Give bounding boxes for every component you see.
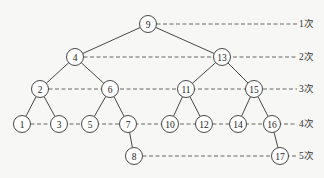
- edge-6-7: [114, 97, 124, 117]
- tree-node-12: 12: [196, 116, 213, 133]
- tree-node-1: 1: [14, 116, 31, 133]
- node-label: 13: [217, 53, 227, 63]
- edge-11-12: [190, 97, 200, 117]
- node-label: 15: [249, 85, 259, 95]
- binary-tree-diagram: 9413261115135710121416817 1次2次3次4次5次: [0, 0, 324, 178]
- level-3-label: 3次: [299, 83, 314, 94]
- level-1-label: 1次: [299, 18, 314, 29]
- node-label: 16: [267, 120, 277, 130]
- edge-13-15: [228, 63, 248, 83]
- tree-node-2: 2: [32, 81, 49, 98]
- node-label: 2: [38, 85, 43, 95]
- tree-node-13: 13: [214, 49, 231, 66]
- tree-node-8: 8: [126, 148, 143, 165]
- node-label: 4: [73, 53, 78, 63]
- tree-node-16: 16: [264, 116, 281, 133]
- tree-node-9: 9: [140, 16, 157, 33]
- tree-node-17: 17: [272, 148, 289, 165]
- edge-7-8: [130, 132, 133, 147]
- edge-9-13: [156, 27, 214, 53]
- edge-16-17: [274, 132, 278, 148]
- edge-6-5: [94, 96, 106, 116]
- edge-2-1: [26, 97, 36, 117]
- node-label: 5: [88, 120, 93, 130]
- node-label: 14: [233, 120, 243, 130]
- node-label: 6: [108, 85, 113, 95]
- tree-node-6: 6: [102, 81, 119, 98]
- tree-node-3: 3: [51, 116, 68, 133]
- node-label: 11: [181, 85, 190, 95]
- node-label: 12: [199, 120, 209, 130]
- edge-2-3: [44, 96, 55, 116]
- tree-node-15: 15: [246, 81, 263, 98]
- level-labels: 1次2次3次4次5次: [299, 18, 314, 161]
- node-label: 9: [146, 20, 151, 30]
- tree-node-5: 5: [82, 116, 99, 133]
- tree-node-7: 7: [120, 116, 137, 133]
- tree-node-14: 14: [230, 116, 247, 133]
- tree-node-4: 4: [67, 49, 84, 66]
- node-label: 8: [132, 152, 137, 162]
- edge-9-4: [83, 28, 141, 54]
- tree-nodes: 9413261115135710121416817: [14, 16, 289, 165]
- node-label: 17: [275, 152, 285, 162]
- node-label: 3: [57, 120, 62, 130]
- node-label: 10: [165, 120, 175, 130]
- edge-4-2: [46, 63, 68, 84]
- level-2-label: 2次: [299, 51, 314, 62]
- edge-15-14: [242, 97, 251, 117]
- node-label: 1: [20, 120, 25, 130]
- tree-node-10: 10: [162, 116, 179, 133]
- node-label: 7: [126, 120, 131, 130]
- level-5-label: 5次: [299, 150, 314, 161]
- edge-4-6: [81, 63, 103, 84]
- edge-11-10: [174, 97, 183, 117]
- tree-node-11: 11: [178, 81, 195, 98]
- level-4-label: 4次: [299, 118, 314, 129]
- edge-15-16: [258, 97, 268, 117]
- edge-13-11: [192, 63, 215, 84]
